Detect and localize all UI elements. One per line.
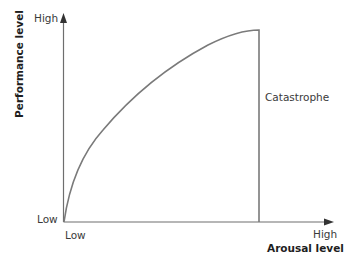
y-axis-arrow-icon	[60, 13, 67, 23]
plot-area	[0, 0, 346, 267]
y-tick-high: High	[34, 13, 58, 24]
x-tick-low: Low	[65, 230, 86, 241]
catastrophe-theory-diagram: Performance level High Low Low High Arou…	[0, 0, 346, 267]
x-axis-arrow-icon	[324, 219, 334, 226]
catastrophe-annotation: Catastrophe	[265, 92, 329, 103]
x-tick-high: High	[313, 229, 337, 240]
y-tick-low: Low	[37, 214, 58, 225]
y-axis-title: Performance level	[14, 10, 25, 118]
performance-curve	[64, 30, 259, 222]
x-axis-title: Arousal level	[267, 243, 344, 254]
